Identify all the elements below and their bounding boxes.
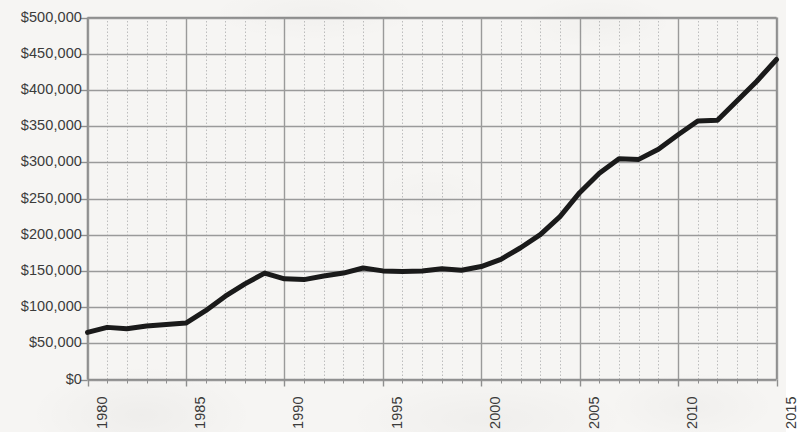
- x-axis-tick-label: 1995: [389, 396, 405, 429]
- x-axis-tick-label: 2015: [783, 396, 799, 429]
- x-axis-tick-label: 2000: [487, 396, 503, 429]
- x-axis-tick-label: 1990: [290, 396, 306, 429]
- x-axis-tick-label: 1985: [192, 396, 208, 429]
- x-axis-tick-label: 1980: [94, 396, 110, 429]
- x-axis-tick-label: 2010: [684, 396, 700, 429]
- x-axis-tick-label: 2005: [586, 396, 602, 429]
